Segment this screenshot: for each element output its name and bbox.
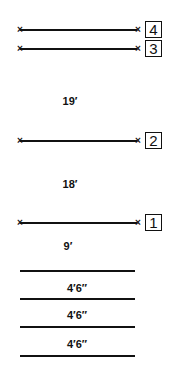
- wire-line: [20, 29, 137, 31]
- wire-line: [20, 140, 137, 142]
- segment-label: 4′6″: [37, 338, 117, 350]
- spacing-label: 19′: [30, 95, 110, 107]
- wire-number-box: 3: [145, 40, 162, 57]
- segment-label: 4′6″: [37, 309, 117, 321]
- wire-number-box: 2: [145, 132, 162, 149]
- level-line: [20, 355, 135, 357]
- x-mark-icon: ×: [134, 136, 142, 146]
- wire-number-box: 4: [145, 21, 162, 38]
- level-line: [20, 298, 135, 300]
- x-mark-icon: ×: [134, 44, 142, 54]
- spacing-label: 18′: [30, 178, 110, 190]
- x-mark-icon: ×: [134, 218, 142, 228]
- level-line: [20, 270, 135, 272]
- segment-label: 4′6″: [37, 282, 117, 294]
- wire-number-box: 1: [145, 214, 162, 231]
- spacing-label: 9′: [28, 240, 108, 252]
- wire-line: [20, 48, 137, 50]
- wire-line: [20, 222, 137, 224]
- x-mark-icon: ×: [134, 25, 142, 35]
- level-line: [20, 326, 135, 328]
